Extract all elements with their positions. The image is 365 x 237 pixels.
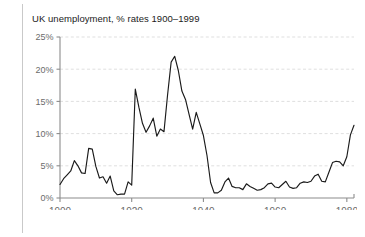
x-tick-label: 1960 <box>264 206 287 210</box>
y-tick-label: 10% <box>35 129 53 139</box>
y-tick-label: 15% <box>35 97 53 107</box>
left-border-rule <box>22 4 23 233</box>
y-axis-ticks-group: 0%5%10%15%20%25% <box>35 32 60 203</box>
y-tick-label: 25% <box>35 32 53 42</box>
x-tick-label: 1920 <box>121 206 144 210</box>
x-tick-label: 1900 <box>49 206 72 210</box>
gridlines-group <box>60 37 354 166</box>
line-chart-svg: 0%5%10%15%20%25% 19001920194019601980 <box>32 30 357 210</box>
y-tick-label: 5% <box>40 161 53 171</box>
unemployment-series-line <box>60 56 354 194</box>
y-tick-label: 0% <box>40 193 53 203</box>
y-tick-label: 20% <box>35 65 53 75</box>
x-tick-label: 1940 <box>192 206 215 210</box>
chart-title: UK unemployment, % rates 1900–1999 <box>32 13 200 24</box>
plot-area: 0%5%10%15%20%25% 19001920194019601980 <box>32 30 357 210</box>
x-axis-ticks-group: 19001920194019601980 <box>49 194 357 210</box>
x-tick-label: 1980 <box>336 206 357 210</box>
chart-screenshot: UK unemployment, % rates 1900–1999 0%5%1… <box>0 0 365 237</box>
